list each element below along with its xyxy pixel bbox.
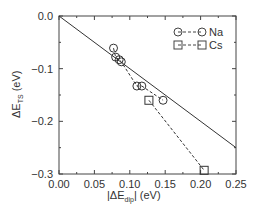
x-axis-label: |ΔEdip| (eV)	[107, 189, 161, 204]
y-tick-label: −0.3	[31, 168, 53, 180]
y-axis-label: ΔETS (eV)	[10, 71, 24, 118]
legend-cs-label: Cs	[209, 39, 223, 51]
y-tick-label: 0.0	[38, 10, 53, 22]
x-tick-label: 0.05	[84, 178, 105, 190]
legend-na-label: Na	[209, 26, 224, 38]
legend: Na Cs	[174, 26, 224, 51]
x-tick-label: 0.20	[190, 178, 211, 190]
x-tick-label: 0.25	[225, 178, 246, 190]
cs-line	[149, 100, 204, 170]
y-tick-label: −0.2	[31, 115, 53, 127]
chart: 0.000.050.100.150.200.250.0−0.1−0.2−0.3 …	[0, 0, 257, 212]
y-tick-label: −0.1	[31, 63, 53, 75]
